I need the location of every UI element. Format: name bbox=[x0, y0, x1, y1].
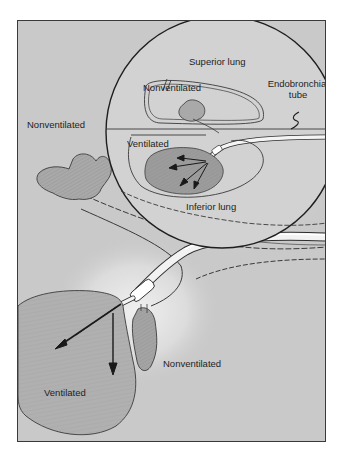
label-ventilated-lower: Ventilated bbox=[44, 387, 86, 398]
figure-frame: Superior lung Nonventilated Endobronchia… bbox=[17, 20, 326, 442]
label-inset-ventilated: Ventilated bbox=[127, 138, 169, 149]
label-superior-lung: Superior lung bbox=[189, 56, 246, 67]
label-inset-nonventilated: Nonventilated bbox=[143, 82, 201, 93]
label-inferior-lung: Inferior lung bbox=[186, 201, 236, 212]
label-endobronchial-tube: Endobronchial tube bbox=[258, 78, 326, 100]
label-nonventilated-lower: Nonventilated bbox=[163, 358, 221, 369]
label-nonventilated-upper: Nonventilated bbox=[27, 119, 85, 130]
